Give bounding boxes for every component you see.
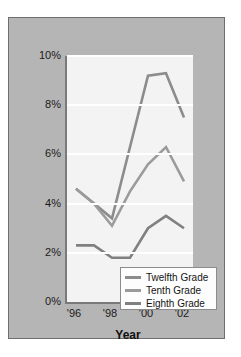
series-line [76,73,184,218]
x-axis-tick-label: '96 [60,307,88,319]
y-axis-tick-label: 2% [15,247,61,258]
legend-item-twelfth-grade: Twelfth Grade [125,271,213,283]
y-axis-tick-label: 10% [15,50,61,61]
gridline [67,203,193,205]
y-axis-tick-label: 6% [15,148,61,159]
legend-item-eighth-grade: Eighth Grade [125,297,213,309]
legend-swatch-twelfth-grade [125,276,141,279]
y-axis-tick-label: 0% [15,296,61,307]
y-axis-tick-labels: 0%2%4%6%8%10% [11,56,61,302]
legend-swatch-eighth-grade [125,302,141,305]
series-line [76,147,184,226]
y-axis-tick-label: 8% [15,99,61,110]
x-axis-title: Year [65,328,191,342]
series-lines [67,56,193,302]
legend-label-twelfth-grade: Twelfth Grade [146,272,208,283]
y-axis-tick-label: 4% [15,198,61,209]
gridline [67,153,193,155]
legend-label-eighth-grade: Eighth Grade [146,298,205,309]
legend-item-tenth-grade: Tenth Grade [125,284,213,296]
legend-label-tenth-grade: Tenth Grade [146,285,201,296]
chart-legend: Twelfth Grade Tenth Grade Eighth Grade [120,267,217,310]
chart-figure: 0%2%4%6%8%10% '96'98'00'02 Year Twelfth … [0,0,241,357]
gridline [67,252,193,254]
gridline [67,55,193,57]
chart-panel: 0%2%4%6%8%10% '96'98'00'02 Year Twelfth … [8,17,225,339]
gridline [67,104,193,106]
legend-swatch-tenth-grade [125,289,141,292]
